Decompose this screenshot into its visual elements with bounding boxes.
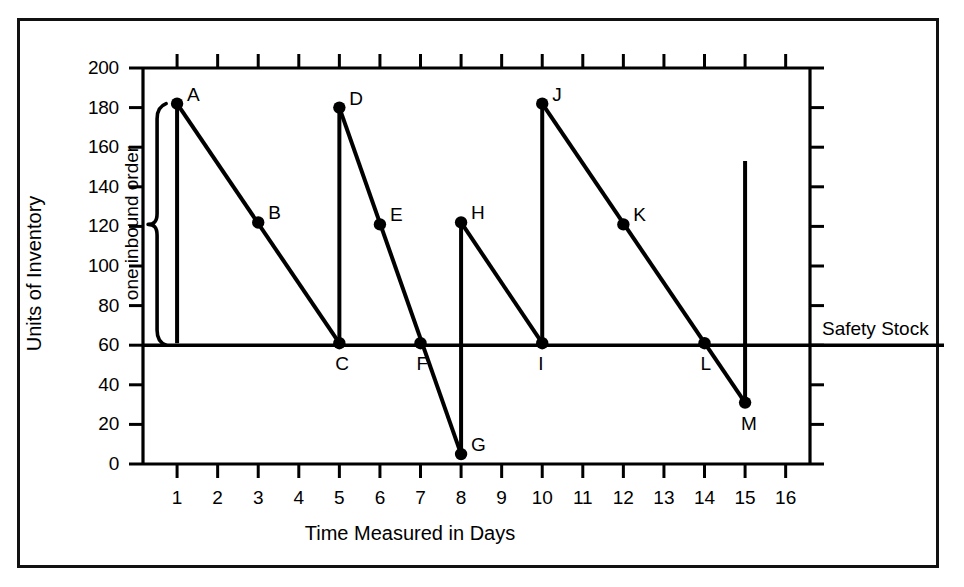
x-tick-label-9: 9 — [487, 488, 517, 507]
y-tick-label-60: 60 — [67, 335, 119, 354]
point-label-C: C — [335, 354, 349, 373]
data-point-L — [698, 337, 710, 349]
point-label-A: A — [187, 85, 200, 104]
x-axis-title: Time Measured in Days — [0, 522, 820, 545]
y-tick-label-180: 180 — [67, 98, 119, 117]
inventory-line-group — [177, 104, 745, 454]
x-tick-label-2: 2 — [203, 488, 233, 507]
x-tick-label-1: 1 — [162, 488, 192, 507]
x-tick-label-7: 7 — [406, 488, 436, 507]
point-label-K: K — [633, 205, 646, 224]
x-tick-label-14: 14 — [690, 488, 720, 507]
segment-depletion-3 — [461, 222, 542, 343]
segment-depletion-4 — [542, 104, 745, 403]
tick-marks-group — [129, 54, 824, 478]
point-label-I: I — [538, 354, 543, 373]
y-tick-label-140: 140 — [67, 177, 119, 196]
y-tick-label-80: 80 — [67, 296, 119, 315]
x-tick-label-6: 6 — [365, 488, 395, 507]
x-tick-label-4: 4 — [284, 488, 314, 507]
y-tick-label-20: 20 — [67, 414, 119, 433]
point-label-L: L — [701, 354, 712, 373]
point-label-E: E — [390, 205, 403, 224]
data-point-F — [414, 337, 426, 349]
point-label-F: F — [417, 354, 429, 373]
data-point-D — [333, 101, 345, 113]
data-point-E — [374, 218, 386, 230]
y-axis-title: Units of Inventory — [23, 164, 46, 384]
point-label-B: B — [268, 203, 281, 222]
y-tick-label-100: 100 — [67, 256, 119, 275]
y-tick-label-120: 120 — [67, 216, 119, 235]
point-label-J: J — [552, 85, 562, 104]
x-tick-label-5: 5 — [324, 488, 354, 507]
x-tick-label-11: 11 — [568, 488, 598, 507]
inventory-sawtooth-chart — [0, 0, 964, 587]
chart-figure: 020406080100120140160180200 123456789101… — [0, 0, 964, 587]
y-tick-label-160: 160 — [67, 137, 119, 156]
x-tick-label-10: 10 — [527, 488, 557, 507]
curly-brace — [148, 104, 166, 346]
inbound-order-brace-group — [148, 104, 166, 346]
data-point-A — [171, 97, 183, 109]
x-tick-label-3: 3 — [243, 488, 273, 507]
inbound-order-label: one inbound order — [121, 118, 143, 328]
data-point-J — [536, 97, 548, 109]
data-point-M — [739, 396, 751, 408]
x-tick-label-8: 8 — [446, 488, 476, 507]
x-tick-label-15: 15 — [730, 488, 760, 507]
point-label-M: M — [741, 414, 757, 433]
safety-stock-label: Safety Stock — [822, 319, 929, 338]
point-label-H: H — [471, 203, 485, 222]
segment-depletion-2 — [339, 108, 461, 455]
data-point-I — [536, 337, 548, 349]
point-label-G: G — [471, 435, 486, 454]
y-tick-label-200: 200 — [67, 58, 119, 77]
x-tick-label-12: 12 — [608, 488, 638, 507]
y-tick-label-40: 40 — [67, 375, 119, 394]
point-label-D: D — [349, 89, 363, 108]
data-point-K — [617, 218, 629, 230]
data-point-H — [455, 216, 467, 228]
x-tick-label-16: 16 — [771, 488, 801, 507]
data-point-C — [333, 337, 345, 349]
data-point-B — [252, 216, 264, 228]
x-tick-label-13: 13 — [649, 488, 679, 507]
axes-group — [143, 68, 810, 464]
data-point-G — [455, 448, 467, 460]
y-tick-label-0: 0 — [67, 454, 119, 473]
